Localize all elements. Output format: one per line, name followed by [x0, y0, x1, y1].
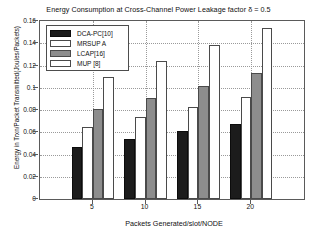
legend-item: MRSUP A [50, 38, 125, 48]
y-tick-mark [33, 198, 38, 199]
x-tick-label: 5 [77, 203, 107, 210]
legend-item: LCAP[16] [50, 48, 125, 58]
y-tick-label: 0.12 [2, 61, 36, 68]
bar-0-0 [72, 147, 83, 199]
bar-3-1 [156, 61, 167, 199]
x-tick-label: 15 [182, 203, 212, 210]
x-tick-label: 20 [235, 203, 265, 210]
bar-0-1 [124, 139, 135, 199]
legend-label: MUP [8] [77, 60, 100, 67]
legend-swatch-icon [50, 50, 71, 57]
y-tick-label: 0.14 [2, 39, 36, 46]
legend-item: MUP [8] [50, 58, 125, 68]
legend-label: DCA-PC[10] [77, 30, 113, 37]
bar-2-1 [146, 98, 157, 199]
bar-2-3 [251, 73, 262, 199]
legend-swatch-icon [50, 40, 71, 47]
y-tick-label: 0.06 [2, 128, 36, 135]
legend-swatch-icon [50, 30, 71, 37]
bar-3-2 [209, 45, 220, 199]
bar-1-2 [188, 107, 199, 199]
x-tick-label: 10 [130, 203, 160, 210]
figure: Energy Consumption at Cross-Channel Powe… [0, 0, 317, 235]
y-tick-mark [33, 42, 38, 43]
y-axis-label: Energy in Trxn/Packet Transmitted(Joules… [13, 8, 20, 188]
y-tick-label: 0.04 [2, 150, 36, 157]
y-tick-label: 0.02 [2, 172, 36, 179]
legend: DCA-PC[10]MRSUP ALCAP[16]MUP [8] [46, 25, 129, 71]
bar-0-2 [177, 131, 188, 199]
y-tick-mark [33, 20, 38, 21]
y-tick-label: 0 [2, 195, 36, 202]
bar-1-3 [241, 97, 252, 199]
legend-label: LCAP[16] [77, 50, 105, 57]
bar-3-3 [262, 28, 273, 199]
y-tick-label: 0.1 [2, 83, 36, 90]
y-tick-mark [33, 154, 38, 155]
legend-label: MRSUP A [77, 40, 106, 47]
y-tick-mark [33, 109, 38, 110]
y-tick-mark [33, 176, 38, 177]
x-axis-label: Packets Generated/slot/NODE [38, 219, 310, 228]
y-tick-mark [33, 87, 38, 88]
y-tick-mark [33, 65, 38, 66]
bar-1-0 [82, 127, 93, 199]
chart-title: Energy Consumption at Cross-Channel Powe… [0, 5, 317, 14]
y-tick-label: 0.16 [2, 17, 36, 24]
bar-2-2 [198, 86, 209, 199]
legend-item: DCA-PC[10] [50, 28, 125, 38]
bar-2-0 [93, 109, 104, 199]
bar-3-0 [103, 77, 114, 199]
y-tick-label: 0.08 [2, 106, 36, 113]
bar-0-3 [230, 124, 241, 199]
legend-swatch-icon [50, 60, 71, 67]
y-tick-mark [33, 131, 38, 132]
bar-1-1 [135, 117, 146, 199]
